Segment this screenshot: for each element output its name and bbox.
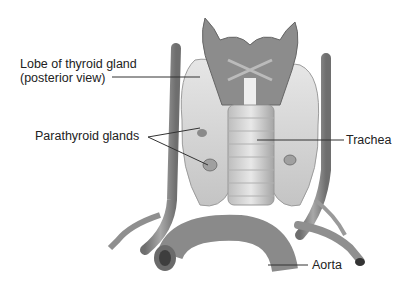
trachea-tube xyxy=(228,105,274,205)
label-thyroid-lobe: Lobe of thyroid gland xyxy=(20,57,137,72)
larynx-highlight xyxy=(244,78,256,108)
label-trachea: Trachea xyxy=(346,133,391,148)
parathyroid-gland-right xyxy=(284,155,296,165)
illustration xyxy=(0,0,410,297)
parathyroid-gland-upper xyxy=(197,129,207,137)
anatomy-diagram: Lobe of thyroid gland (posterior view) P… xyxy=(0,0,410,297)
aorta xyxy=(154,228,285,271)
label-aorta: Aorta xyxy=(312,258,342,273)
parathyroid-gland-lower xyxy=(203,159,217,171)
left-carotid-artery xyxy=(110,48,176,250)
label-parathyroid-glands: Parathyroid glands xyxy=(35,129,139,144)
label-thyroid-posterior-view: (posterior view) xyxy=(20,71,105,86)
